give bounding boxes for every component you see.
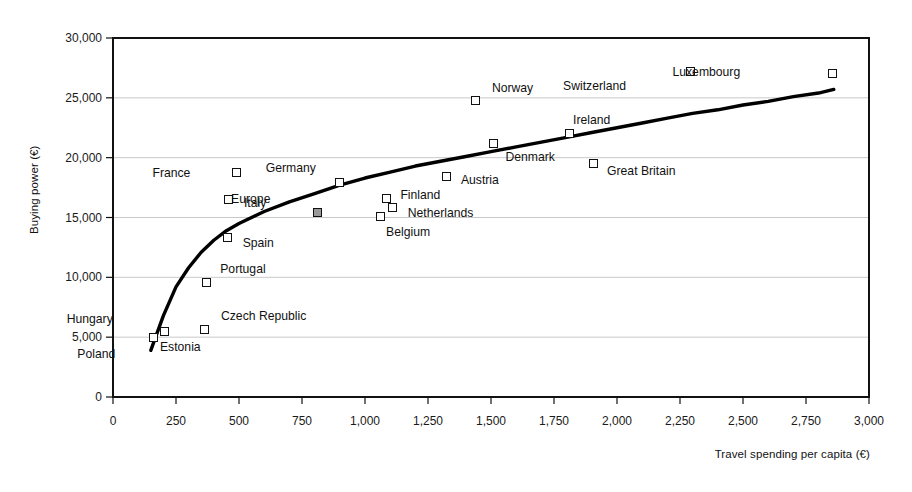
data-point-marker (313, 208, 322, 217)
data-point-marker (223, 233, 232, 242)
x-tick-label: 3,000 (839, 415, 899, 427)
data-point-marker (442, 172, 451, 181)
data-point-marker (149, 333, 158, 342)
data-point-label: Austria (461, 174, 499, 186)
data-point-label: Poland (77, 348, 115, 360)
data-point-label: Luxembourg (672, 66, 740, 78)
data-point-label: Germany (266, 162, 316, 174)
y-tick-label: 10,000 (65, 271, 102, 283)
x-axis-title: Travel spending per capita (€) (715, 448, 870, 460)
data-point-marker (489, 139, 498, 148)
data-point-marker (202, 278, 211, 287)
data-point-label: France (152, 167, 190, 179)
x-tick-label: 1,000 (335, 415, 395, 427)
data-point-marker (565, 129, 574, 138)
data-point-label: Ireland (573, 114, 610, 126)
data-point-label: Czech Republic (221, 310, 306, 322)
data-point-marker (160, 327, 169, 336)
data-point-marker (382, 194, 391, 203)
x-tick-label: 250 (146, 415, 206, 427)
data-point-marker (388, 203, 397, 212)
x-tick-label: 1,500 (461, 415, 521, 427)
data-point-marker (232, 168, 241, 177)
y-tick-label: 30,000 (65, 32, 102, 44)
data-point-marker (335, 178, 344, 187)
data-point-label: Netherlands (408, 207, 474, 219)
gridlines (113, 98, 869, 337)
data-point-label: Denmark (506, 151, 555, 163)
data-point-label: Belgium (386, 226, 430, 238)
data-point-label: Great Britain (607, 165, 675, 177)
y-tick-label: 15,000 (65, 212, 102, 224)
scatter-chart: Buying power (€) Travel spending per cap… (0, 0, 912, 492)
data-point-marker (471, 96, 480, 105)
x-tick-label: 1,250 (398, 415, 458, 427)
x-tick-label: 750 (272, 415, 332, 427)
data-point-label: Switzerland (563, 80, 626, 92)
y-tick-label: 20,000 (65, 152, 102, 164)
x-tick-label: 2,500 (713, 415, 773, 427)
x-tick-label: 0 (83, 415, 143, 427)
data-point-label: Portugal (220, 263, 265, 275)
y-tick-label: 0 (95, 391, 102, 403)
data-point-marker (828, 69, 837, 78)
data-point-marker (589, 159, 598, 168)
data-point-label: Norway (492, 82, 533, 94)
y-axis-ticks (106, 38, 113, 397)
x-tick-label: 2,250 (650, 415, 710, 427)
x-axis-ticks (113, 397, 869, 404)
data-point-marker (376, 212, 385, 221)
y-tick-label: 25,000 (65, 92, 102, 104)
data-point-label: Spain (243, 237, 274, 249)
data-point-label: Europe (231, 193, 270, 205)
y-tick-label: 5,000 (72, 331, 102, 343)
x-tick-label: 2,000 (587, 415, 647, 427)
x-tick-label: 2,750 (776, 415, 836, 427)
y-axis-title-wrap: Buying power (€) (6, 38, 32, 398)
y-axis-title: Buying power (€) (28, 145, 40, 234)
data-point-label: Estonia (160, 341, 201, 353)
x-tick-label: 500 (209, 415, 269, 427)
x-tick-label: 1,750 (524, 415, 584, 427)
data-point-marker (200, 325, 209, 334)
data-point-label: Hungary (67, 313, 113, 325)
data-point-label: Finland (400, 189, 440, 201)
